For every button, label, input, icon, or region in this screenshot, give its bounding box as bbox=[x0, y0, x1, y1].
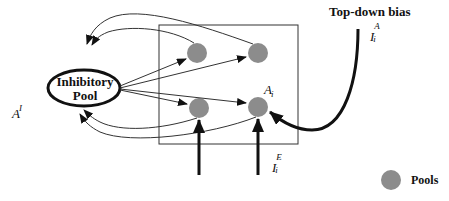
top-down-input-label: IAi bbox=[370, 29, 382, 45]
pool-bottom-right bbox=[248, 97, 268, 117]
arrow-inhibitory-to-bottom-left bbox=[120, 90, 187, 104]
inhibitory-pool-line1: Inhibitory bbox=[49, 75, 121, 89]
pool-activity-label: Ai bbox=[264, 82, 274, 98]
label-sub: i bbox=[271, 89, 274, 99]
arrow-bottom-left-to-inhibitory bbox=[84, 110, 197, 128]
label-sub: i bbox=[275, 165, 278, 175]
pool-bottom-left bbox=[189, 98, 209, 118]
top-down-bias-arrow bbox=[270, 29, 358, 130]
label-sup: I bbox=[19, 103, 22, 113]
inhibitory-pool-label: Inhibitory Pool bbox=[49, 75, 121, 103]
arrow-inhibitory-to-top-left bbox=[120, 59, 186, 86]
pool-top-right bbox=[248, 43, 268, 63]
legend-pools-label: Pools bbox=[411, 173, 438, 188]
arrow-inhibitory-to-top-right bbox=[120, 57, 246, 88]
label-sup: E bbox=[276, 152, 282, 162]
arrow-inhibitory-to-bottom-right bbox=[120, 89, 246, 103]
arrow-top-left-to-inhibitory bbox=[92, 28, 194, 45]
arrow-top-right-to-inhibitory bbox=[87, 14, 253, 44]
label-sup: A bbox=[374, 21, 380, 31]
inhibitory-pool-line2: Pool bbox=[49, 89, 121, 103]
inhibitory-activity-label: AI bbox=[12, 106, 23, 122]
arrow-bottom-right-to-inhibitory bbox=[80, 114, 256, 138]
legend-pool-dot bbox=[381, 170, 401, 190]
pool-top-left bbox=[187, 43, 207, 63]
external-input-label: IEi bbox=[272, 160, 284, 176]
top-down-bias-title: Top-down bias bbox=[329, 4, 411, 20]
label-sub: i bbox=[373, 34, 376, 44]
diagram-canvas: Inhibitory Pool AI Ai Top-down bias IAi … bbox=[0, 0, 449, 201]
